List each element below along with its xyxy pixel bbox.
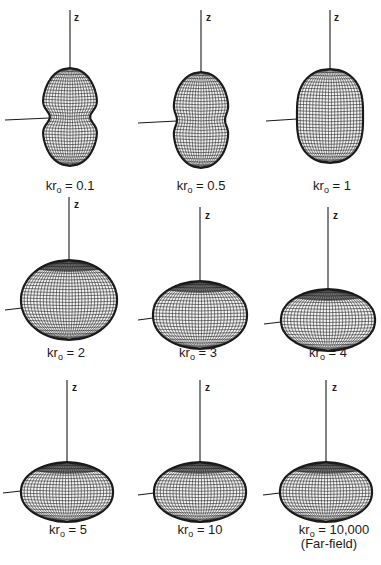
z-axis-label: z xyxy=(72,382,77,393)
pattern-panel-9 xyxy=(263,380,374,522)
panel-caption: kro = 3 xyxy=(158,345,238,362)
pattern-panel-8 xyxy=(138,380,248,522)
caption-kr: kr xyxy=(309,345,320,360)
x-axis xyxy=(263,493,280,495)
panel-caption: kro = 1 xyxy=(292,178,372,195)
x-axis xyxy=(138,318,153,320)
x-axis xyxy=(5,118,50,120)
caption-value: = 4 xyxy=(325,345,347,360)
panel-caption: kro = 0.1 xyxy=(30,178,110,195)
caption-kr: kr xyxy=(46,178,57,193)
caption-value: = 10,000 xyxy=(315,522,370,537)
caption-value: = 1 xyxy=(329,178,351,193)
x-axis xyxy=(264,322,281,324)
caption-kr: kr xyxy=(47,345,58,360)
caption-kr: kr xyxy=(49,522,60,537)
caption-value: = 5 xyxy=(65,522,87,537)
x-axis xyxy=(266,119,297,121)
panel-caption: kro = 2 xyxy=(26,345,106,362)
z-axis-label: z xyxy=(205,382,210,393)
panel-caption: kro = 4 xyxy=(288,345,368,362)
caption-value: = 3 xyxy=(195,345,217,360)
z-axis-label: z xyxy=(333,210,338,221)
caption-kr: kr xyxy=(177,178,188,193)
x-axis xyxy=(138,121,177,123)
pattern-panel-2 xyxy=(138,10,230,168)
panel-caption: kro = 0.5 xyxy=(161,178,241,195)
caption-value: = 10 xyxy=(193,522,222,537)
panel-caption: kro = 10 xyxy=(160,522,240,539)
caption-value: = 0.5 xyxy=(192,178,225,193)
z-axis-label: z xyxy=(74,199,79,210)
panel-caption: kro = 5 xyxy=(28,522,108,539)
pattern-panel-6 xyxy=(264,207,377,351)
z-axis-label: z xyxy=(205,210,210,221)
x-axis xyxy=(3,491,21,493)
pattern-panel-7 xyxy=(3,380,115,522)
z-axis-label: z xyxy=(332,382,337,393)
caption-value: = 0.1 xyxy=(61,178,94,193)
pattern-panel-3 xyxy=(266,10,365,163)
pattern-panel-1 xyxy=(5,10,99,166)
x-axis xyxy=(138,493,154,495)
caption-note: (Far-field) xyxy=(284,536,374,551)
z-axis-label: z xyxy=(334,12,339,23)
caption-value: = 2 xyxy=(63,345,85,360)
caption-kr: kr xyxy=(313,178,324,193)
figure-canvas xyxy=(0,0,381,565)
panel-caption: kro = 10,000(Far-field) xyxy=(294,522,374,551)
pattern-panel-5 xyxy=(138,207,249,349)
pattern-panel-4 xyxy=(5,197,119,340)
caption-kr: kr xyxy=(177,522,188,537)
caption-kr: kr xyxy=(179,345,190,360)
x-axis xyxy=(5,308,22,310)
caption-kr: kr xyxy=(299,522,310,537)
z-axis-label: z xyxy=(74,12,79,23)
z-axis-label: z xyxy=(206,12,211,23)
